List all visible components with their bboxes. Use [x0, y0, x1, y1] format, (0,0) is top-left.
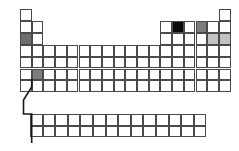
cell-r5c2[interactable]: [32, 57, 44, 69]
fcell-r2c1[interactable]: [30, 126, 43, 138]
fcell-r2c6[interactable]: [93, 126, 106, 138]
cell-r6c13[interactable]: [160, 69, 172, 81]
fcell-r1c3[interactable]: [55, 114, 68, 126]
cell-r7c17[interactable]: [207, 80, 219, 92]
cell-r4c1[interactable]: [20, 45, 32, 57]
cell-r7c5[interactable]: [67, 80, 79, 92]
cell-r2c16[interactable]: [196, 21, 208, 33]
cell-r7c2[interactable]: [32, 80, 44, 92]
fcell-r2c4[interactable]: [68, 126, 81, 138]
cell-r6c12[interactable]: [149, 69, 161, 81]
cell-r4c14[interactable]: [172, 45, 184, 57]
fcell-r2c12[interactable]: [169, 126, 182, 138]
cell-r4c11[interactable]: [137, 45, 149, 57]
cell-r6c5[interactable]: [67, 69, 79, 81]
cell-r5c7[interactable]: [90, 57, 102, 69]
cell-r3c18[interactable]: [219, 33, 231, 45]
cell-r5c15[interactable]: [184, 57, 196, 69]
cell-r4c7[interactable]: [90, 45, 102, 57]
cell-r1c1[interactable]: [20, 9, 32, 21]
cell-r7c12[interactable]: [149, 80, 161, 92]
cell-r4c6[interactable]: [79, 45, 91, 57]
cell-r3c16[interactable]: [196, 33, 208, 45]
cell-r7c15[interactable]: [184, 80, 196, 92]
cell-r6c16[interactable]: [196, 69, 208, 81]
cell-r2c14[interactable]: [172, 21, 184, 33]
cell-r5c13[interactable]: [160, 57, 172, 69]
cell-r7c7[interactable]: [90, 80, 102, 92]
cell-r3c1[interactable]: [20, 33, 32, 45]
cell-r5c6[interactable]: [79, 57, 91, 69]
fcell-r2c2[interactable]: [43, 126, 56, 138]
cell-r6c18[interactable]: [219, 69, 231, 81]
cell-r2c13[interactable]: [160, 21, 172, 33]
cell-r7c4[interactable]: [55, 80, 67, 92]
fcell-r2c7[interactable]: [106, 126, 119, 138]
cell-r4c5[interactable]: [67, 45, 79, 57]
cell-r2c1[interactable]: [20, 21, 32, 33]
fcell-r1c5[interactable]: [80, 114, 93, 126]
cell-r6c3[interactable]: [43, 69, 55, 81]
fcell-r1c2[interactable]: [43, 114, 56, 126]
cell-r7c1[interactable]: [20, 80, 32, 92]
cell-r6c7[interactable]: [90, 69, 102, 81]
cell-r2c2[interactable]: [32, 21, 44, 33]
fcell-r1c7[interactable]: [106, 114, 119, 126]
cell-r6c10[interactable]: [125, 69, 137, 81]
fcell-r2c3[interactable]: [55, 126, 68, 138]
cell-r4c2[interactable]: [32, 45, 44, 57]
cell-r6c1[interactable]: [20, 69, 32, 81]
cell-r5c10[interactable]: [125, 57, 137, 69]
cell-r5c17[interactable]: [207, 57, 219, 69]
cell-r5c14[interactable]: [172, 57, 184, 69]
cell-r7c14[interactable]: [172, 80, 184, 92]
cell-r7c6[interactable]: [79, 80, 91, 92]
cell-r7c13[interactable]: [160, 80, 172, 92]
cell-r6c15[interactable]: [184, 69, 196, 81]
cell-r4c15[interactable]: [184, 45, 196, 57]
cell-r2c17[interactable]: [207, 21, 219, 33]
cell-r6c6[interactable]: [79, 69, 91, 81]
cell-r4c17[interactable]: [207, 45, 219, 57]
cell-r5c12[interactable]: [149, 57, 161, 69]
cell-r5c18[interactable]: [219, 57, 231, 69]
cell-r4c4[interactable]: [55, 45, 67, 57]
fcell-r1c10[interactable]: [143, 114, 156, 126]
cell-r7c11[interactable]: [137, 80, 149, 92]
cell-r5c8[interactable]: [102, 57, 114, 69]
cell-r3c15[interactable]: [184, 33, 196, 45]
cell-r4c13[interactable]: [160, 45, 172, 57]
cell-r5c16[interactable]: [196, 57, 208, 69]
cell-r6c2[interactable]: [32, 69, 44, 81]
cell-r7c9[interactable]: [114, 80, 126, 92]
cell-r1c18[interactable]: [219, 9, 231, 21]
cell-r7c10[interactable]: [125, 80, 137, 92]
cell-r3c13[interactable]: [160, 33, 172, 45]
cell-r7c3[interactable]: [43, 80, 55, 92]
cell-r6c4[interactable]: [55, 69, 67, 81]
cell-r5c5[interactable]: [67, 57, 79, 69]
cell-r7c18[interactable]: [219, 80, 231, 92]
fcell-r2c10[interactable]: [143, 126, 156, 138]
cell-r4c18[interactable]: [219, 45, 231, 57]
cell-r4c9[interactable]: [114, 45, 126, 57]
cell-r3c2[interactable]: [32, 33, 44, 45]
fcell-r1c14[interactable]: [194, 114, 207, 126]
cell-r6c8[interactable]: [102, 69, 114, 81]
cell-r7c8[interactable]: [102, 80, 114, 92]
fcell-r1c11[interactable]: [156, 114, 169, 126]
fcell-r1c4[interactable]: [68, 114, 81, 126]
fcell-r1c6[interactable]: [93, 114, 106, 126]
cell-r6c11[interactable]: [137, 69, 149, 81]
fcell-r1c1[interactable]: [30, 114, 43, 126]
cell-r5c4[interactable]: [55, 57, 67, 69]
cell-r5c11[interactable]: [137, 57, 149, 69]
fcell-r1c9[interactable]: [131, 114, 144, 126]
cell-r5c1[interactable]: [20, 57, 32, 69]
fcell-r2c5[interactable]: [80, 126, 93, 138]
cell-r4c3[interactable]: [43, 45, 55, 57]
cell-r4c8[interactable]: [102, 45, 114, 57]
fcell-r2c8[interactable]: [118, 126, 131, 138]
fcell-r2c14[interactable]: [194, 126, 207, 138]
cell-r2c15[interactable]: [184, 21, 196, 33]
